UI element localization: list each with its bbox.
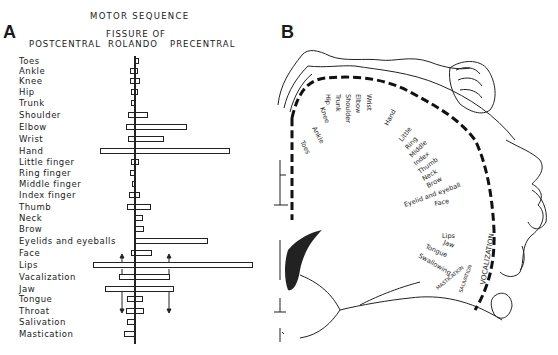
label-wrist: Wrist (365, 94, 373, 111)
homunculus-diagram: Toes Ankle Knee Hip Trunk Shoulder Elbow… (270, 0, 558, 355)
arrows-overlay (0, 0, 270, 355)
label-hand: Hand (383, 108, 398, 127)
label-trunk: Trunk (334, 93, 342, 112)
label-knee: Knee (318, 106, 331, 124)
label-hip: Hip (324, 94, 332, 105)
label-swallowing: Swallowing (417, 252, 453, 277)
label-vocalization: VOCALIZATION (479, 233, 496, 286)
label-toes: Toes (298, 138, 313, 156)
label-elbow: Elbow (354, 94, 362, 114)
label-shoulder: Shoulder (344, 94, 352, 123)
label-face: Face (434, 197, 450, 208)
label-ankle: Ankle (310, 125, 326, 145)
